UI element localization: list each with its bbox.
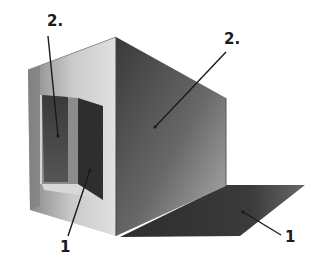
door-opening (40, 95, 103, 200)
label-2-left: 2. (47, 14, 63, 29)
label-2-right: 2. (224, 32, 240, 47)
box-drawing (0, 0, 322, 273)
label-1-shadow: 1 (285, 230, 295, 245)
label-1-door: 1 (60, 240, 70, 255)
